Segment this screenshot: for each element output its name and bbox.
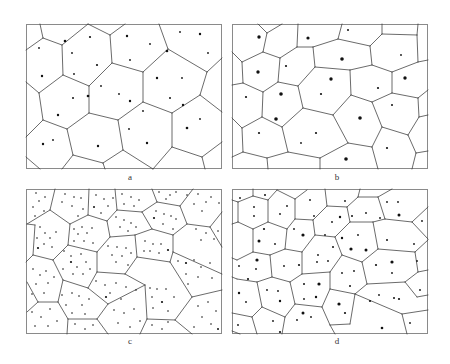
- seed-point: [78, 295, 80, 297]
- seed-point: [207, 301, 209, 303]
- voronoi-diagram-a: [26, 24, 222, 169]
- seed-point: [55, 231, 57, 233]
- seed-point: [86, 232, 88, 234]
- seed-point: [177, 260, 179, 262]
- seed-point: [84, 328, 86, 330]
- seed-point: [205, 232, 207, 234]
- seed-point: [71, 52, 73, 54]
- seed-point: [91, 227, 93, 229]
- seed-point: [313, 215, 315, 217]
- seed-point: [386, 147, 388, 149]
- seed-point: [158, 191, 160, 193]
- seed-point: [377, 87, 379, 89]
- seed-point: [73, 240, 75, 242]
- seed-point: [215, 310, 217, 312]
- seed-point: [38, 200, 40, 202]
- seed-point: [107, 245, 109, 247]
- seed-point: [347, 29, 349, 31]
- seed-point: [127, 264, 129, 266]
- seed-point: [416, 260, 418, 262]
- seed-point: [39, 274, 41, 276]
- seed-point: [51, 246, 53, 248]
- seed-point: [296, 319, 298, 321]
- seed-point: [43, 292, 45, 294]
- seed-point: [398, 298, 400, 300]
- seed-point: [264, 194, 266, 196]
- seed-point: [73, 73, 75, 75]
- seed-point: [256, 70, 259, 73]
- seed-point: [400, 54, 402, 56]
- seed-point: [353, 270, 355, 272]
- seed-point: [95, 280, 97, 282]
- seed-point: [115, 261, 117, 263]
- seed-point: [393, 297, 395, 299]
- panel-label-b: b: [317, 172, 357, 182]
- seed-point: [72, 97, 74, 99]
- seed-point: [92, 324, 94, 326]
- seed-point: [156, 77, 158, 79]
- voronoi-diagram-c: [26, 189, 222, 334]
- seed-point: [207, 52, 209, 54]
- voronoi-diagram-d: [232, 189, 428, 334]
- seed-point: [337, 302, 340, 305]
- seed-point: [123, 312, 125, 314]
- seed-point: [111, 254, 113, 256]
- panel-label-a: a: [110, 172, 150, 182]
- seed-point: [144, 240, 146, 242]
- seed-point: [375, 264, 377, 266]
- seed-point: [53, 276, 55, 278]
- seed-point: [64, 40, 67, 43]
- seed-point: [258, 240, 261, 243]
- seed-point: [239, 197, 241, 199]
- seed-point: [197, 193, 199, 195]
- seed-point: [238, 292, 240, 294]
- seed-point: [293, 228, 295, 230]
- seed-point: [57, 114, 59, 116]
- seed-point: [82, 273, 84, 275]
- seed-point: [100, 85, 102, 87]
- seed-point: [41, 75, 43, 77]
- seed-point: [52, 139, 54, 141]
- seed-point: [217, 328, 219, 330]
- seed-point: [43, 243, 45, 245]
- seed-point: [125, 286, 127, 288]
- seed-point: [49, 237, 51, 239]
- seed-point: [88, 298, 90, 300]
- seed-point: [199, 33, 201, 35]
- seed-point: [123, 219, 125, 221]
- seed-point: [83, 240, 85, 242]
- seed-point: [32, 268, 34, 270]
- seed-point: [245, 301, 247, 303]
- seed-point: [413, 243, 415, 245]
- seed-point: [109, 292, 111, 294]
- seed-point: [169, 194, 171, 196]
- seed-point: [82, 208, 84, 210]
- seed-point: [158, 252, 160, 254]
- panel-frame: [233, 190, 428, 334]
- seed-point: [185, 273, 187, 275]
- seed-point: [71, 205, 73, 207]
- seed-point: [93, 206, 95, 208]
- seed-point: [245, 96, 247, 98]
- seed-point: [61, 294, 63, 296]
- seed-point: [152, 243, 154, 245]
- seed-point: [129, 59, 131, 61]
- seed-point: [187, 283, 189, 285]
- seed-point: [100, 212, 102, 214]
- panel-frame: [27, 190, 222, 334]
- seed-point: [351, 215, 353, 217]
- seed-point: [247, 278, 249, 280]
- seed-point: [317, 254, 319, 256]
- seed-point: [320, 93, 322, 95]
- seed-point: [166, 50, 169, 53]
- seed-point: [381, 327, 384, 330]
- seed-point: [210, 196, 212, 198]
- seed-point: [121, 255, 123, 257]
- seed-point: [369, 300, 371, 302]
- seed-point: [211, 277, 213, 279]
- seed-point: [193, 326, 195, 328]
- seed-point: [172, 228, 174, 230]
- seed-point: [349, 247, 352, 250]
- seed-point: [316, 261, 318, 263]
- seed-point: [391, 272, 393, 274]
